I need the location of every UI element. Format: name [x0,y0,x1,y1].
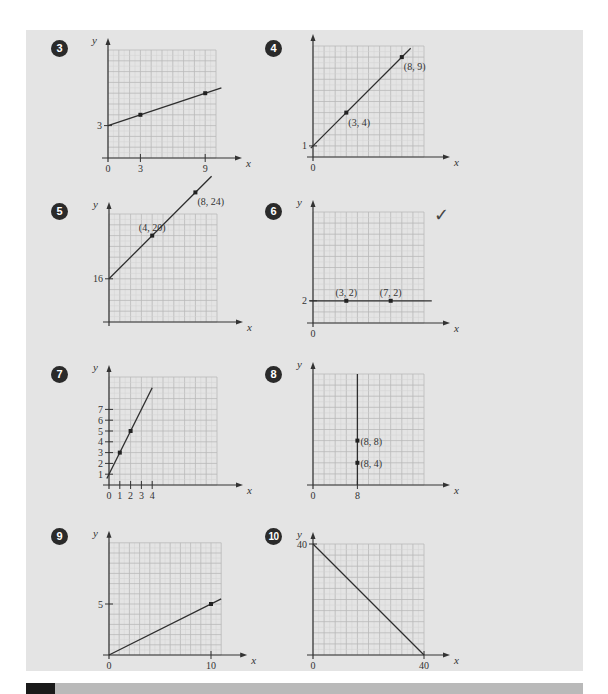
point-label: (3, 4) [348,117,370,129]
y-axis-label: y [296,196,302,208]
graph-3: xy0393 [91,34,251,174]
x-tick-label: 10 [206,660,216,671]
graph-8: xy08(8, 8)(8, 4) [296,358,459,501]
y-tick-label: 4 [98,436,103,447]
point-label: (7, 2) [380,287,402,299]
y-axis-label: y [92,527,98,539]
y-tick-label: 6 [98,415,103,426]
x-axis-label: x [453,322,459,334]
x-tick-label: 9 [203,163,208,174]
x-tick-label: 8 [355,490,360,501]
x-axis-label: x [246,321,252,333]
x-tick-label: 4 [150,490,155,501]
y-tick-label: 1 [302,140,307,151]
graphs-canvas: xy0393x01(3, 4)(8, 9)xy16(4, 20)(8, 24)x… [0,0,608,694]
y-tick-label: 5 [98,426,103,437]
y-tick-label: 16 [93,273,103,284]
data-point [344,299,348,303]
data-point [209,602,213,606]
graph-6: xy02(3, 2)(7, 2) [296,196,459,339]
x-axis-label: x [453,484,459,496]
x-tick-label: 40 [419,660,429,671]
x-tick-label: 3 [138,163,143,174]
y-axis-label: y [91,34,97,46]
data-point [150,234,154,238]
data-point [344,111,348,115]
x-tick-label: 0 [107,660,112,671]
data-point [118,451,122,455]
point-label: (4, 20) [139,222,166,234]
x-axis-label: x [245,157,251,169]
data-point [389,299,393,303]
graph-10: xy04040 [296,528,459,671]
point-label: (8, 4) [360,458,382,470]
y-tick-label: 40 [297,539,307,550]
data-point [355,439,359,443]
y-tick-label: 1 [98,469,103,480]
data-point [355,461,359,465]
y-tick-label: 3 [97,120,102,131]
graph-4: x01(3, 4)(8, 9) [302,34,459,173]
x-tick-label: 0 [311,162,316,173]
x-tick-label: 3 [139,490,144,501]
x-tick-label: 1 [117,490,122,501]
x-axis-label: x [453,654,459,666]
plotted-line [107,388,152,479]
data-point [203,91,207,95]
point-label: (8, 24) [197,196,224,208]
x-tick-label: 0 [106,163,111,174]
y-axis-label: y [92,198,98,210]
y-tick-label: 2 [302,295,307,306]
y-tick-label: 3 [98,447,103,458]
x-tick-label: 0 [311,660,316,671]
y-tick-label: 2 [98,458,103,469]
data-point [193,190,197,194]
y-tick-label: 5 [98,599,103,610]
data-point [138,113,142,117]
x-tick-label: 0 [311,328,316,339]
x-tick-label: 0 [107,490,112,501]
x-tick-label: 2 [128,490,133,501]
graph-5: xy16(4, 20)(8, 24) [92,176,252,333]
graph-9: xy0105 [92,527,256,671]
y-tick-label: 7 [98,404,103,415]
plotted-line [311,48,411,148]
graph-7: xy012341234567 [92,361,252,501]
data-point [129,429,133,433]
x-axis-label: x [246,484,252,496]
point-label: (8, 9) [404,61,426,73]
y-axis-label: y [296,358,302,370]
y-axis-label: y [92,361,98,373]
x-axis-label: x [250,654,256,666]
point-label: (8, 8) [360,436,382,448]
x-axis-label: x [453,156,459,168]
x-tick-label: 0 [311,490,316,501]
point-label: (3, 2) [335,287,357,299]
data-point [400,55,404,59]
